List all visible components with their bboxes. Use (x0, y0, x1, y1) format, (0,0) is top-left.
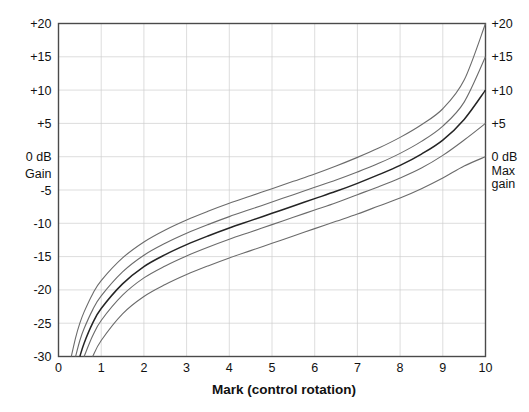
y-tick-label: +5 (37, 117, 51, 131)
gain-curve-1 (76, 57, 486, 357)
y-tick-label: -20 (33, 283, 51, 297)
x-tick-label: 9 (439, 361, 446, 375)
y-tick-label: +15 (30, 50, 51, 64)
y-tick-label-right: +20 (492, 17, 513, 31)
x-tick-label: 2 (140, 361, 147, 375)
y-tick-label: -15 (33, 250, 51, 264)
y-tick-label-right: +15 (492, 50, 513, 64)
x-axis-tick-labels: 012345678910 (55, 361, 492, 375)
gain-curve-chart: +20+15+10+50 dB-5-10-15-20-25-30 +20+15+… (0, 0, 529, 412)
y-tick-label: 0 dB (26, 150, 52, 164)
y-tick-label-right: 0 dB (492, 150, 518, 164)
y-tick-label: -5 (40, 184, 51, 198)
right-axis-label-line1: Max (492, 164, 516, 178)
right-axis-label-line2: gain (492, 177, 516, 191)
y-tick-label-right: +5 (492, 117, 506, 131)
y-tick-label: +20 (30, 17, 51, 31)
x-tick-label: 4 (226, 361, 233, 375)
plot-svg: +20+15+10+50 dB-5-10-15-20-25-30 +20+15+… (0, 0, 529, 412)
x-tick-label: 7 (354, 361, 361, 375)
x-axis-label: Mark (control rotation) (212, 382, 356, 397)
y-tick-label: +10 (30, 84, 51, 98)
y-tick-label: -10 (33, 217, 51, 231)
y-tick-label: -30 (33, 350, 51, 364)
gain-curve-3 (84, 123, 485, 356)
x-tick-label: 6 (311, 361, 318, 375)
x-tick-label: 5 (269, 361, 276, 375)
x-tick-label: 8 (397, 361, 404, 375)
gridlines-group (59, 24, 486, 357)
x-tick-label: 1 (98, 361, 105, 375)
x-tick-label: 10 (479, 361, 493, 375)
y-axis-label: Gain (25, 167, 51, 181)
y-tick-label: -25 (33, 317, 51, 331)
y-tick-label-right: +10 (492, 84, 513, 98)
y-axis-right-tick-labels: +20+15+10+50 dB (492, 17, 518, 164)
axis-name-labels: Gain Max gain (25, 164, 516, 191)
x-tick-label: 3 (183, 361, 190, 375)
x-tick-label: 0 (55, 361, 62, 375)
y-axis-tick-labels: +20+15+10+50 dB-5-10-15-20-25-30 (26, 17, 52, 364)
